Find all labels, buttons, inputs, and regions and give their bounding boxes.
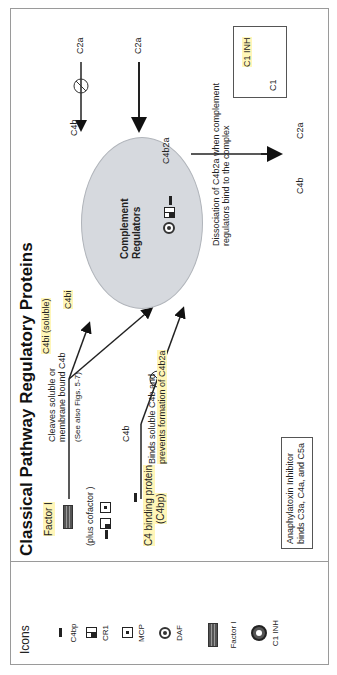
cr1-checker-icon [164, 207, 175, 218]
figure-frame: Icons C4bp CR1 MCP DAF Factor I [10, 8, 329, 665]
c2a-top-label-2: C2a [133, 37, 143, 54]
factor-i-action-2: membrane bound C4b [57, 352, 67, 442]
cell-label-2: Regulators [131, 207, 143, 259]
cofactor-icons [97, 502, 115, 536]
factor-i-striped-icon [63, 505, 73, 529]
c4bi-soluble-label: C4bi (soluble) [41, 298, 51, 354]
dissociation-text-2: regulators bind to the complex [221, 125, 231, 246]
see-also-note: (See also Figs. 5-7) [73, 372, 82, 442]
cofactor-note: (plus cofactor ) [85, 486, 95, 546]
c1-inh-label: C1 INH [242, 37, 252, 67]
diagram-canvas: Icons C4bp CR1 MCP DAF Factor I [0, 0, 337, 675]
dissociation-c2a: C2a [295, 122, 305, 139]
regulator-icons [161, 199, 179, 234]
anaphylatoxin-box: Anaphylatoxin Inhibitor binds C3a, C4a, … [281, 437, 313, 549]
c2a-top-label-1: C2a [75, 37, 85, 54]
c4b-bound-label: C4b [121, 425, 131, 442]
c4bp-label-2: (C4bp) [155, 493, 167, 524]
c1-label: C1 [268, 79, 278, 91]
c4bp-action-2: prevents formation of C4b2a [157, 350, 167, 464]
c4bi-surface-label: C4bi [63, 290, 73, 309]
daf-ring-icon [163, 222, 175, 234]
c4b2a-surface-label: C4b2a [161, 137, 171, 164]
dissociation-text-1: Dissociation of C4b2a when complement [211, 83, 221, 246]
c4b-top-label: C4b [69, 119, 79, 136]
c4bp-label-1: C4 binding protein [143, 465, 155, 546]
mcp-square-icon [100, 502, 111, 513]
c4bp-action-1: Binds soluble C4b and [147, 374, 157, 464]
c4bp-bar-icon [134, 493, 137, 502]
anaphylatoxin-line-2: binds C3a, C4a, and C5a [296, 443, 306, 544]
cr1-checker-icon [100, 518, 111, 529]
factor-i-action-1: Cleaves soluble or [47, 368, 57, 442]
factor-i-label: Factor I [43, 502, 55, 536]
c4bp-bar-icon [105, 530, 108, 539]
c1-inh-box: C1 C1 INH [233, 26, 287, 98]
anaphylatoxin-line-1: Anaphylatoxin Inhibitor [285, 453, 295, 544]
c4bp-bar-icon [169, 196, 172, 205]
cell-label-1: Complement [119, 198, 131, 259]
pathway-arrows [11, 9, 328, 664]
dissociation-c4b: C4b [295, 177, 305, 194]
